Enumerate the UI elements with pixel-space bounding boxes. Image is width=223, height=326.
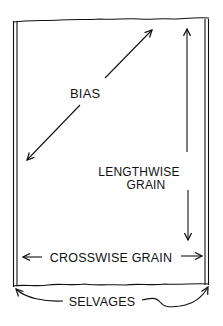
diagram-svg: BIAS LENGTHWISE GRAIN CROSSWISE GRAIN SE… [0,0,223,326]
crosswise-label: CROSSWISE GRAIN [50,251,172,265]
bottom-cut-edge [13,284,209,286]
selvages-curve-right [142,287,208,307]
bias-arrow-down-left [27,105,80,160]
lengthwise-arrow [187,29,188,240]
selvages-curve-left [16,289,63,301]
fabric-outline [13,18,209,287]
lengthwise-label-line2: GRAIN [126,178,165,192]
fabric-grain-diagram: BIAS LENGTHWISE GRAIN CROSSWISE GRAIN SE… [0,0,223,326]
top-cut-edge [13,18,209,22]
bias-arrow-up-right [105,30,152,78]
lengthwise-label-line1: LENGTHWISE [98,165,179,179]
selvages-label: SELVAGES [69,295,135,309]
bias-label: BIAS [70,86,101,101]
